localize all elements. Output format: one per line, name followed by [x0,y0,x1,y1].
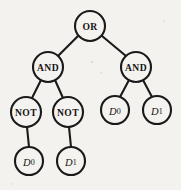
tree-edge-root-to-and-right [102,36,126,56]
tree-node-leaf-d0-r[interactable]: D0 [101,96,129,124]
tree-edge-not-right-to-leaf-d1-l [69,127,71,147]
tree-edge-and-left-to-not-left [32,80,41,98]
node-label-leaf-d0-l: D0 [22,156,35,167]
paper-speck-1 [100,72,102,74]
tree-node-leaf-d1-l[interactable]: D1 [57,147,85,175]
node-label-not-right: NOT [57,107,79,118]
tree-edge-root-to-and-left [58,36,78,56]
node-label-and-left: AND [37,62,59,73]
tree-node-leaf-d1-r[interactable]: D1 [143,96,171,124]
node-label-leaf-d1-l: D1 [64,156,77,167]
node-label-leaf-d0-r: D0 [108,105,121,116]
expression-tree-diagram: ORANDANDNOTNOTD0D1D0D1 [0,0,181,190]
tree-node-and-right[interactable]: AND [121,52,151,82]
tree-canvas: ORANDANDNOTNOTD0D1D0D1 [0,0,181,190]
tree-edge-and-right-to-leaf-d0-r [120,80,129,97]
tree-node-not-left[interactable]: NOT [11,97,41,127]
node-label-and-right: AND [125,62,147,73]
node-label-leaf-d1-r: D1 [150,105,163,116]
tree-edge-and-left-to-not-right [55,80,63,98]
node-label-not-left: NOT [15,107,37,118]
tree-node-not-right[interactable]: NOT [53,97,83,127]
tree-edge-not-left-to-leaf-d0-l [27,127,29,147]
tree-node-leaf-d0-l[interactable]: D0 [15,147,43,175]
paper-speck-0 [91,61,93,63]
paper-speck-2 [163,20,164,21]
tree-node-and-left[interactable]: AND [33,52,63,82]
paper-speck-3 [11,183,12,184]
node-label-root: OR [82,21,98,32]
tree-node-root[interactable]: OR [75,11,105,41]
tree-edge-and-right-to-leaf-d1-r [143,80,152,97]
